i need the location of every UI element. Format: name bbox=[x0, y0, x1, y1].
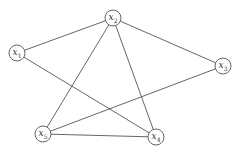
node-label-x2: x2 bbox=[109, 12, 118, 24]
edge-x3-x5 bbox=[50, 69, 215, 131]
edge-x1-x4 bbox=[24, 57, 149, 133]
edge-x1-x2 bbox=[25, 21, 106, 51]
node-label-x5: x5 bbox=[39, 128, 48, 140]
edge-x2-x3 bbox=[120, 21, 215, 63]
node-label-x4: x4 bbox=[152, 131, 161, 143]
edge-x2-x5 bbox=[47, 25, 109, 127]
graph-diagram: x1x2x3x4x5 bbox=[0, 0, 237, 154]
edge-x5-x4 bbox=[51, 134, 148, 137]
graph-svg bbox=[0, 0, 237, 154]
node-label-x1: x1 bbox=[13, 47, 22, 59]
node-label-x3: x3 bbox=[219, 60, 228, 72]
edge-x2-x4 bbox=[116, 26, 154, 130]
